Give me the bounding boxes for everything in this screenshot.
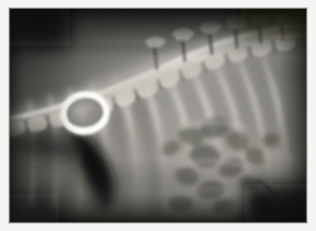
film-grain [9, 8, 307, 223]
radiograph-plate [9, 8, 307, 223]
radiograph-canvas [9, 8, 307, 223]
radiograph-page: X-ray lateral radiopaque ring foreign bo… [0, 0, 316, 231]
